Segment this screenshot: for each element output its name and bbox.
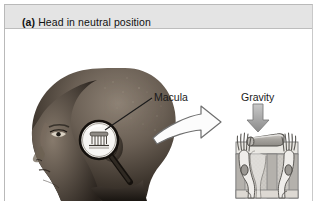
- block-arrow-down-icon: [247, 104, 269, 132]
- figure-body: Macula: [5, 30, 312, 201]
- label-gravity: Gravity: [241, 91, 274, 103]
- panel-title-label: Head in neutral position: [38, 16, 151, 28]
- otolithic-membrane: [247, 134, 284, 146]
- panel-title-bar: (a) Head in neutral position: [5, 5, 312, 29]
- panel-title: (a) Head in neutral position: [22, 16, 151, 28]
- macula-cross-section: [5, 30, 312, 201]
- figure-panel-a: (a) Head in neutral position: [0, 0, 335, 205]
- panel-tag: (a): [22, 16, 35, 28]
